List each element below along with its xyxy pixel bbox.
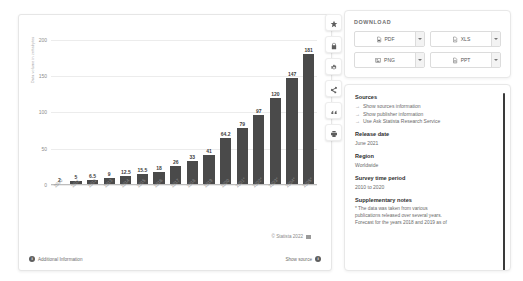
x-axis-tick: 2022* (251, 183, 268, 207)
bar-value-label: 26 (173, 159, 179, 165)
bar-value-label: 120 (271, 91, 279, 97)
bar-slot: 120 (267, 29, 284, 185)
chevron-down-icon[interactable] (491, 53, 500, 67)
bar-value-label: 33 (190, 154, 196, 160)
download-pdf-main[interactable]: PDF (355, 32, 415, 46)
supplementary-notes-heading: Supplementary notes (355, 197, 498, 203)
y-axis-title: Data volume in zettabytes (31, 37, 35, 83)
chevron-down-icon[interactable] (415, 53, 424, 67)
source-link[interactable]: →Show sources information (355, 103, 498, 109)
info-panel: Sources →Show sources information→Show p… (344, 84, 511, 271)
download-ppt-button[interactable]: PPT (430, 52, 501, 68)
download-xls-button[interactable]: XLS (430, 31, 501, 47)
survey-time-period-heading: Survey time period (355, 175, 498, 181)
bar-value-label: 15.5 (138, 167, 148, 173)
download-xls-label: XLS (461, 36, 470, 42)
x-axis-tick: 2019 (201, 183, 218, 207)
bar[interactable]: 147 (286, 78, 297, 185)
arrow-right-icon: → (355, 111, 360, 117)
download-xls-main[interactable]: XLS (431, 32, 491, 46)
source-link[interactable]: →Show publisher information (355, 111, 498, 117)
download-png-button[interactable]: PNG (354, 52, 425, 68)
x-axis-tick: 2020 (217, 183, 234, 207)
share-icon-button[interactable] (325, 80, 342, 97)
supplementary-notes-body: * The data was taken from variouspublica… (355, 206, 498, 227)
bar[interactable]: 181 (303, 54, 314, 185)
chevron-down-icon[interactable] (491, 32, 500, 46)
chart-column: Data volume in zettabytes 050100150200 2… (0, 0, 340, 281)
side-panel: DOWNLOAD PDFXLSPNGPPT Sources →Show sour… (340, 0, 523, 281)
y-axis-tick-label: 0 (44, 182, 47, 188)
bar-slot: 64.2 (217, 29, 234, 185)
citation-icon-button[interactable] (325, 102, 342, 119)
bar-slot: 147 (284, 29, 301, 185)
download-png-main[interactable]: PNG (355, 53, 415, 67)
source-link[interactable]: →Use Ask Statista Research Service (355, 118, 498, 124)
x-axis-tick: 2023* (267, 183, 284, 207)
lock-icon-button[interactable] (325, 36, 342, 53)
bar-value-label: 147 (288, 71, 296, 77)
bar-slot: 41 (201, 29, 218, 185)
info-icon: i (29, 256, 35, 262)
x-axis-tick-labels: 2010201120122013201420152016201720182019… (51, 183, 317, 207)
bar-slot: 18 (151, 29, 168, 185)
bar-value-label: 79 (239, 121, 245, 127)
plot-area: Data volume in zettabytes 050100150200 2… (25, 25, 325, 221)
x-axis-tick: 2025* (300, 183, 317, 207)
source-link-label: Show sources information (363, 103, 421, 109)
bar[interactable]: 120 (270, 98, 281, 185)
bar-value-label: 64.2 (221, 131, 231, 137)
settings-icon (330, 58, 338, 76)
source-link-label: Use Ask Statista Research Service (363, 118, 440, 124)
statista-chart-page: Data volume in zettabytes 050100150200 2… (0, 0, 523, 281)
source-link-label: Show publisher information (363, 111, 423, 117)
bar-value-label: 97 (256, 108, 262, 114)
print-icon-button[interactable] (325, 124, 342, 141)
bar-value-label: 181 (305, 47, 313, 53)
x-axis-tick: 2017 (167, 183, 184, 207)
download-ppt-main[interactable]: PPT (431, 53, 491, 67)
additional-information-label: Additional Information (38, 257, 82, 262)
survey-time-period-value: 2010 to 2020 (355, 184, 498, 190)
panel-scrollbar[interactable] (503, 93, 506, 271)
download-panel: DOWNLOAD PDFXLSPNGPPT (344, 10, 511, 78)
bar-value-label: 18 (156, 165, 162, 171)
pdf-file-icon (376, 36, 382, 43)
region-value: Worldwide (355, 162, 498, 168)
png-image-icon (375, 57, 381, 64)
download-png-label: PNG (384, 57, 395, 63)
x-axis-tick: 2014 (118, 183, 135, 207)
bar-slot: 2 (51, 29, 68, 185)
chart-action-rail (325, 14, 342, 141)
chart-footer: © Statista 2022 i Additional Information… (27, 234, 323, 264)
y-axis-tick-label: 200 (39, 37, 47, 43)
settings-icon-button[interactable] (325, 58, 342, 75)
copyright-row: © Statista 2022 (272, 234, 311, 239)
bar-slot: 5 (68, 29, 85, 185)
release-date-heading: Release date (355, 131, 498, 137)
download-buttons-grid: PDFXLSPNGPPT (354, 31, 501, 68)
download-pdf-label: PDF (385, 36, 395, 42)
flag-icon (306, 235, 311, 239)
region-heading: Region (355, 153, 498, 159)
x-axis-tick: 2024* (284, 183, 301, 207)
additional-information-button[interactable]: i Additional Information (29, 256, 82, 262)
bar-value-label: 9 (108, 171, 111, 177)
favorite-icon-button[interactable] (325, 14, 342, 31)
supplementary-note-line: publications released over several years… (355, 213, 498, 220)
chevron-down-icon[interactable] (415, 32, 424, 46)
info-icon: i (315, 256, 321, 262)
show-source-button[interactable]: Show source i (285, 256, 321, 262)
x-axis-tick: 2012 (84, 183, 101, 207)
sources-heading: Sources (355, 94, 498, 100)
bar[interactable]: 97 (253, 115, 264, 185)
lock-icon (330, 36, 338, 54)
download-pdf-button[interactable]: PDF (354, 31, 425, 47)
x-axis-tick: 2021* (234, 183, 251, 207)
arrow-right-icon: → (355, 118, 360, 124)
x-axis-tick: 2011 (68, 183, 85, 207)
download-title: DOWNLOAD (354, 19, 501, 25)
supplementary-note-line: Forecast for the years 2018 and 2019 as … (355, 220, 498, 227)
x-axis-tick: 2015 (134, 183, 151, 207)
sources-links: →Show sources information→Show publisher… (355, 103, 498, 124)
